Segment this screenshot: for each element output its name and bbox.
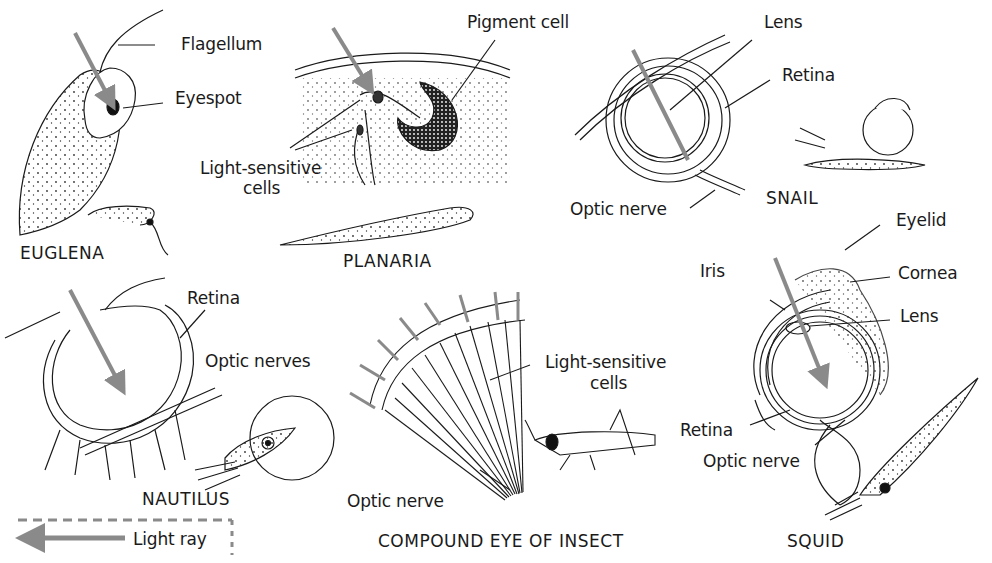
label-iris: Iris <box>700 262 725 280</box>
label-retina-squid: Retina <box>680 421 733 439</box>
caption-nautilus: NAUTILUS <box>142 490 230 508</box>
caption-snail: SNAIL <box>766 189 818 207</box>
nautilus-drawing <box>5 278 334 490</box>
caption-compound-eye: COMPOUND EYE OF INSECT <box>378 532 624 550</box>
label-optic-nerves: Optic nerves <box>205 352 311 370</box>
label-lens-snail: Lens <box>764 13 802 31</box>
label-optic-nerve-squid: Optic nerve <box>703 452 800 470</box>
light-ray-arrow-icon <box>70 290 120 385</box>
label-lens-squid: Lens <box>900 307 938 325</box>
label-light-sensitive-insect: Light-sensitive <box>545 353 666 371</box>
label-eyelid: Eyelid <box>896 211 946 229</box>
planaria-drawing <box>280 40 510 245</box>
legend-label-light-ray: Light ray <box>133 530 207 548</box>
label-flagellum: Flagellum <box>181 35 262 53</box>
caption-euglena: EUGLENA <box>20 244 104 262</box>
label-eyespot: Eyespot <box>175 89 242 107</box>
label-light-sensitive: Light-sensitive <box>200 159 321 177</box>
label-cells: cells <box>243 179 280 197</box>
diagram-artwork <box>0 0 992 563</box>
label-cells-insect: cells <box>590 374 627 392</box>
caption-planaria: PLANARIA <box>343 252 432 270</box>
insect-eye-drawing <box>370 300 655 500</box>
caption-squid: SQUID <box>787 532 844 550</box>
label-cornea: Cornea <box>898 264 957 282</box>
label-retina-snail: Retina <box>782 66 835 84</box>
label-pigment-cell: Pigment cell <box>467 13 569 31</box>
light-ray-arrow-icon <box>333 28 368 85</box>
label-retina-nautilus: Retina <box>187 289 240 307</box>
label-optic-nerve-insect: Optic nerve <box>347 492 444 510</box>
euglena-drawing <box>19 10 168 255</box>
snail-drawing <box>575 35 925 208</box>
label-optic-nerve-snail: Optic nerve <box>570 200 667 218</box>
